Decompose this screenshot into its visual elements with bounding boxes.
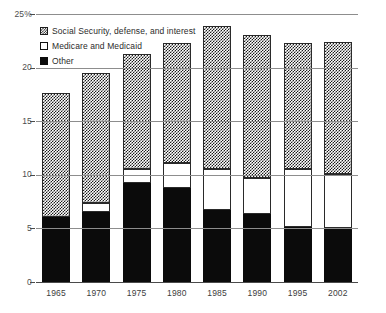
y-axis-tick-mark [30,282,35,283]
bar-group[interactable] [284,14,312,282]
bar-segment-other[interactable] [123,183,151,282]
bar-segment-other[interactable] [42,217,70,282]
bar-segment-social-security-defense-interest[interactable] [82,73,110,203]
gridline-10 [36,175,358,176]
y-axis-tick-label: 25% [0,10,32,19]
y-axis-tick-mark [30,228,35,229]
bar-segment-other[interactable] [82,212,110,282]
gridline-5 [36,228,358,229]
stacked-bar-chart: Social Security, defense, and interestMe… [0,0,386,313]
y-axis-tick-mark [30,14,35,15]
x-axis-tick-label: 1995 [278,288,318,298]
y-axis-tick-mark [30,175,35,176]
bar-segment-medicare-medicaid[interactable] [123,169,151,183]
bar-segment-medicare-medicaid[interactable] [324,174,352,229]
bar-segment-other[interactable] [284,227,312,282]
bar-segment-social-security-defense-interest[interactable] [42,93,70,216]
legend-item[interactable]: Other [40,54,196,67]
gridline-0 [36,282,358,283]
bar-segment-social-security-defense-interest[interactable] [324,42,352,174]
chart-legend: Social Security, defense, and interestMe… [40,24,196,69]
bar-segment-social-security-defense-interest[interactable] [243,35,271,178]
bar-segment-medicare-medicaid[interactable] [284,169,312,227]
y-axis-tick-label: 20 [0,63,32,72]
y-axis-tick-label: 10 [0,170,32,179]
bar-segment-other[interactable] [324,228,352,282]
x-axis-tick-label: 1985 [197,288,237,298]
bar-segment-other[interactable] [243,214,271,282]
y-axis-tick-label: 15 [0,117,32,126]
legend-item-label: Social Security, defense, and interest [52,26,196,36]
bar-segment-medicare-medicaid[interactable] [243,178,271,214]
gridline-15 [36,121,358,122]
legend-item-label: Medicare and Medicaid [52,41,142,51]
bar-group[interactable] [324,14,352,282]
bar-segment-social-security-defense-interest[interactable] [203,26,231,170]
bar-segment-medicare-medicaid[interactable] [82,203,110,213]
legend-swatch-icon [40,57,48,65]
legend-item[interactable]: Medicare and Medicaid [40,39,196,52]
bar-segment-other[interactable] [163,188,191,282]
legend-swatch-icon [40,42,48,50]
x-axis-tick-label: 1975 [117,288,157,298]
bar-segment-social-security-defense-interest[interactable] [284,43,312,169]
x-axis-tick-label: 1990 [237,288,277,298]
gridline-25 [36,14,358,15]
y-axis-tick-mark [30,121,35,122]
x-axis-tick-label: 1980 [157,288,197,298]
bar-segment-social-security-defense-interest[interactable] [123,54,151,170]
y-axis-tick-label: 0 [0,278,32,287]
y-axis-tick-label: 5 [0,224,32,233]
legend-item-label: Other [52,56,74,66]
x-axis-tick-label: 1970 [76,288,116,298]
bar-group[interactable] [243,14,271,282]
bar-segment-other[interactable] [203,210,231,282]
y-axis-tick-mark [30,68,35,69]
bar-group[interactable] [203,14,231,282]
x-axis-tick-label: 1965 [36,288,76,298]
x-axis-tick-label: 2002 [318,288,358,298]
legend-item[interactable]: Social Security, defense, and interest [40,24,196,37]
legend-swatch-icon [40,27,48,35]
